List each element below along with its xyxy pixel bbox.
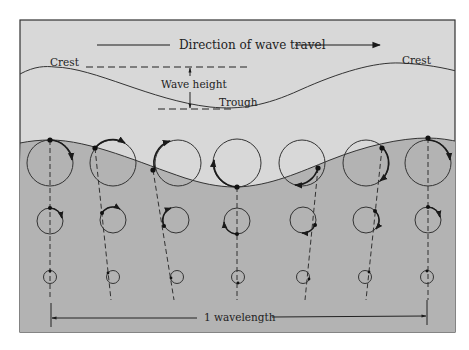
wave-height-label: Wave height (161, 78, 227, 90)
crest-label-right: Crest (402, 54, 432, 66)
trough-label: Trough (219, 96, 258, 108)
wave-orbital-diagram: Direction of wave travel Crest Crest Wav… (0, 0, 469, 350)
crest-label-left: Crest (50, 56, 80, 68)
wavelength-label: 1 wavelength (204, 311, 276, 323)
